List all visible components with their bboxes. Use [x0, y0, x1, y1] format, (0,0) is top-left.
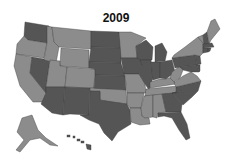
state-SD[interactable]: [89, 47, 121, 63]
state-KS[interactable]: [94, 75, 126, 90]
state-CO[interactable]: [65, 67, 95, 88]
state-HI[interactable]: [67, 135, 91, 150]
state-MI[interactable]: [155, 43, 167, 62]
state-WY[interactable]: [60, 48, 89, 68]
state-AK[interactable]: [16, 115, 58, 152]
us-choropleth-map: [0, 0, 232, 166]
state-MT[interactable]: [52, 27, 91, 49]
state-MA[interactable]: [203, 43, 214, 48]
state-RI[interactable]: [208, 48, 211, 52]
state-NM[interactable]: [63, 87, 90, 115]
state-ME[interactable]: [207, 19, 220, 44]
state-IA[interactable]: [121, 58, 143, 74]
state-CT[interactable]: [203, 48, 208, 53]
state-FL[interactable]: [158, 112, 190, 140]
state-NY[interactable]: [172, 37, 203, 58]
state-ND[interactable]: [91, 31, 121, 48]
